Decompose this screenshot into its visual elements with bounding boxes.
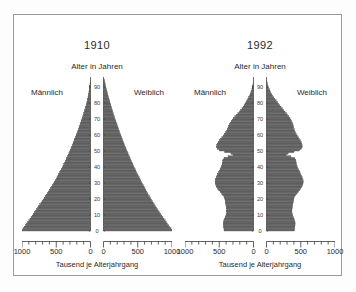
- x-axis-tick-label: 0: [88, 247, 92, 256]
- x-axis-tick-label: 1000: [14, 247, 31, 256]
- svg-text:60: 60: [94, 132, 100, 138]
- x-axis-tick-label: 500: [213, 247, 226, 256]
- svg-text:30: 30: [94, 180, 100, 186]
- x-axis-tick-label: 1000: [177, 247, 194, 256]
- svg-text:0: 0: [258, 228, 261, 234]
- pyramid-plot: 0102030405060708090: [22, 77, 172, 235]
- x-axis-tick-label: 0: [251, 247, 255, 256]
- pyramid-svg: 0102030405060708090: [22, 77, 172, 235]
- x-axis-tick-label: 500: [50, 247, 63, 256]
- svg-text:40: 40: [94, 164, 100, 170]
- svg-text:10: 10: [257, 212, 263, 218]
- x-axis-tick-labels: 0500100005001000: [178, 247, 342, 259]
- panel-1910: 1910 Alter in Jahren Männlich Weiblich 0…: [15, 15, 179, 275]
- y-axis-title: Alter in Jahren: [178, 62, 342, 71]
- x-axis-tick-label: 0: [264, 247, 268, 256]
- x-axis-tick-label: 500: [131, 247, 144, 256]
- pyramid-plot: 0102030405060708090: [185, 77, 335, 235]
- x-axis-tick-label: 500: [294, 247, 307, 256]
- x-axis-tick-labels: 0500100005001000: [15, 247, 179, 259]
- svg-text:70: 70: [94, 116, 100, 122]
- x-axis-caption: Tausend je Alterjahrgang: [178, 260, 342, 269]
- svg-text:20: 20: [257, 196, 263, 202]
- x-axis: [185, 236, 335, 246]
- x-axis: [22, 236, 172, 246]
- svg-text:70: 70: [257, 116, 263, 122]
- svg-text:60: 60: [257, 132, 263, 138]
- svg-text:90: 90: [257, 84, 263, 90]
- pyramid-svg: 0102030405060708090: [185, 77, 335, 235]
- panel-title: 1992: [178, 39, 342, 51]
- svg-text:40: 40: [257, 164, 263, 170]
- svg-text:90: 90: [94, 84, 100, 90]
- x-axis-tick-label: 0: [101, 247, 105, 256]
- svg-text:80: 80: [257, 100, 263, 106]
- figure-canvas: 1910 Alter in Jahren Männlich Weiblich 0…: [0, 0, 356, 292]
- panel-1992: 1992 Alter in Jahren Männlich Weiblich 0…: [178, 15, 342, 275]
- svg-text:30: 30: [257, 180, 263, 186]
- x-axis-caption: Tausend je Alterjahrgang: [15, 260, 179, 269]
- svg-text:50: 50: [257, 148, 263, 154]
- svg-text:10: 10: [94, 212, 100, 218]
- chart-frame: 1910 Alter in Jahren Männlich Weiblich 0…: [13, 14, 342, 276]
- panel-title: 1910: [15, 39, 179, 51]
- y-axis-title: Alter in Jahren: [15, 62, 179, 71]
- svg-text:50: 50: [94, 148, 100, 154]
- svg-text:20: 20: [94, 196, 100, 202]
- svg-text:0: 0: [95, 228, 98, 234]
- x-axis-tick-label: 1000: [327, 247, 344, 256]
- svg-text:80: 80: [94, 100, 100, 106]
